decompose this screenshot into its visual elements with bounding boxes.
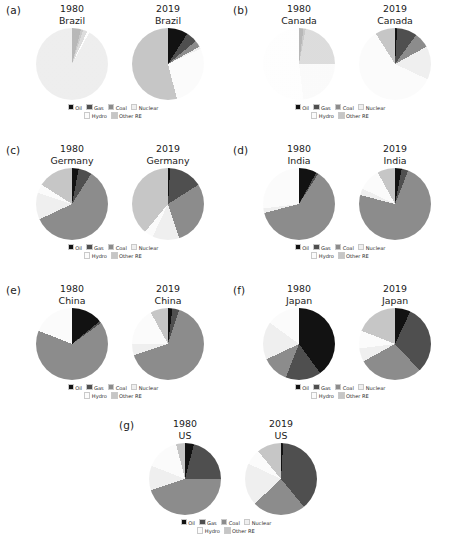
panel-b: (b)1980Canada2019CanadaOilGasCoalNuclear…	[227, 0, 453, 140]
legend-swatch-hydro-icon	[84, 112, 90, 118]
chart-title: 1980Germany	[22, 140, 122, 166]
legend-item-hydro: Hydro	[84, 252, 107, 260]
chart-year: 2019	[345, 3, 445, 15]
pie-wrap	[132, 28, 204, 100]
legend-label: Oil	[75, 245, 82, 251]
legend-row: HydroOther RE	[0, 392, 226, 400]
legend-label: Oil	[75, 385, 82, 391]
legend-item-coal: Coal	[108, 244, 127, 252]
chart-title: 2019Japan	[345, 280, 445, 306]
pie-wrap	[263, 28, 335, 100]
legend-row: HydroOther RE	[227, 252, 453, 260]
legend-label: Hydro	[319, 113, 334, 119]
legend-swatch-other-re-icon	[224, 527, 230, 533]
legend-label: Oil	[302, 385, 309, 391]
chart-country: US	[231, 430, 331, 442]
legend-row: OilGasCoalNuclear	[227, 384, 453, 392]
chart-country: India	[249, 155, 349, 167]
chart-legend: OilGasCoalNuclearHydroOther RE	[0, 244, 226, 261]
pie-wrap	[263, 168, 335, 240]
legend-row: OilGasCoalNuclear	[0, 384, 226, 392]
legend-label: Nuclear	[139, 385, 159, 391]
panel-f: (f)1980Japan2019JapanOilGasCoalNuclearHy…	[227, 280, 453, 420]
pie-slices	[132, 308, 204, 380]
legend-label: Nuclear	[366, 245, 386, 251]
legend-item-oil: Oil	[68, 384, 82, 392]
chart-pair: 1980Canada2019CanadaOilGasCoalNuclearHyd…	[227, 0, 453, 140]
chart-country: Canada	[345, 15, 445, 27]
legend-item-gas: Gas	[313, 104, 330, 112]
chart-year: 1980	[249, 143, 349, 155]
legend-item-nuclear: Nuclear	[358, 244, 385, 252]
legend-swatch-gas-icon	[86, 384, 92, 390]
legend-swatch-nuclear-icon	[244, 519, 250, 525]
legend-swatch-hydro-icon	[311, 392, 317, 398]
pie-chart-india-2019: 2019India	[345, 140, 445, 240]
chart-legend: OilGasCoalNuclearHydroOther RE	[113, 519, 339, 536]
legend-swatch-nuclear-icon	[131, 244, 137, 250]
pie-wrap	[149, 443, 221, 515]
pie-slices	[245, 443, 317, 515]
chart-year: 2019	[118, 3, 218, 15]
legend-item-hydro: Hydro	[311, 392, 334, 400]
legend-item-other-re: Other RE	[111, 392, 141, 400]
chart-pair: 1980Germany2019GermanyOilGasCoalNuclearH…	[0, 140, 226, 280]
legend-label: Other RE	[346, 253, 369, 259]
legend-swatch-hydro-icon	[311, 112, 317, 118]
legend-swatch-oil-icon	[295, 104, 301, 110]
legend-row: OilGasCoalNuclear	[227, 104, 453, 112]
legend-swatch-hydro-icon	[197, 527, 203, 533]
legend-item-coal: Coal	[335, 384, 354, 392]
legend-label: Other RE	[119, 253, 142, 259]
legend-label: Coal	[229, 520, 240, 526]
legend-item-gas: Gas	[199, 519, 216, 527]
legend-swatch-coal-icon	[108, 384, 114, 390]
panel-c: (c)1980Germany2019GermanyOilGasCoalNucle…	[0, 140, 226, 280]
legend-label: Coal	[116, 385, 127, 391]
panel-e: (e)1980China2019ChinaOilGasCoalNuclearHy…	[0, 280, 226, 420]
legend-swatch-nuclear-icon	[358, 104, 364, 110]
legend-label: Gas	[94, 245, 104, 251]
legend-swatch-gas-icon	[86, 104, 92, 110]
legend-item-gas: Gas	[86, 384, 103, 392]
chart-pair: 1980US2019USOilGasCoalNuclearHydroOther …	[113, 415, 339, 550]
chart-title: 1980US	[135, 415, 235, 441]
legend-swatch-other-re-icon	[111, 112, 117, 118]
legend-swatch-nuclear-icon	[358, 244, 364, 250]
pie-slices	[36, 28, 108, 100]
pie-slices	[132, 168, 204, 240]
legend-item-oil: Oil	[295, 104, 309, 112]
legend-swatch-coal-icon	[335, 244, 341, 250]
legend-swatch-nuclear-icon	[358, 384, 364, 390]
legend-label: Gas	[207, 520, 217, 526]
legend-label: Coal	[116, 245, 127, 251]
legend-swatch-gas-icon	[313, 104, 319, 110]
legend-label: Oil	[188, 520, 195, 526]
chart-legend: OilGasCoalNuclearHydroOther RE	[227, 244, 453, 261]
chart-country: Japan	[345, 295, 445, 307]
legend-label: Nuclear	[252, 520, 272, 526]
pie-slices	[132, 28, 204, 100]
legend-swatch-nuclear-icon	[131, 384, 137, 390]
legend-label: Coal	[343, 245, 354, 251]
chart-country: Canada	[249, 15, 349, 27]
legend-label: Oil	[75, 105, 82, 111]
legend-label: Other RE	[119, 393, 142, 399]
legend-swatch-gas-icon	[313, 244, 319, 250]
panel-a: (a)1980Brazil2019BrazilOilGasCoalNuclear…	[0, 0, 226, 140]
pie-chart-brazil-2019: 2019Brazil	[118, 0, 218, 100]
legend-item-coal: Coal	[335, 244, 354, 252]
legend-swatch-gas-icon	[313, 384, 319, 390]
chart-title: 1980Japan	[249, 280, 349, 306]
pie-slices	[263, 28, 335, 100]
legend-item-other-re: Other RE	[338, 112, 368, 120]
legend-item-nuclear: Nuclear	[358, 384, 385, 392]
pie-slices	[263, 168, 335, 240]
legend-row: HydroOther RE	[0, 252, 226, 260]
legend-label: Other RE	[119, 113, 142, 119]
legend-item-oil: Oil	[68, 104, 82, 112]
chart-year: 1980	[22, 3, 122, 15]
legend-item-hydro: Hydro	[311, 252, 334, 260]
chart-country: Brazil	[118, 15, 218, 27]
pie-slices	[359, 168, 431, 240]
